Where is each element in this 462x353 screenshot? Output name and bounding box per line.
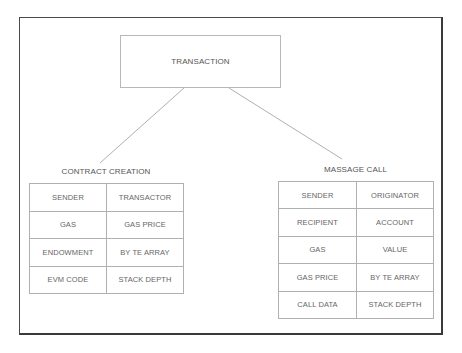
transaction-node: TRANSACTION xyxy=(120,35,281,88)
table-row: EVM CODE STACK DEPTH xyxy=(30,266,184,294)
contract-creation-label: CONTRACT CREATION xyxy=(29,167,183,176)
table-cell: SENDER xyxy=(30,184,107,212)
table-cell: SENDER xyxy=(279,182,357,209)
table-row: ENDOWMENT BY TE ARRAY xyxy=(30,239,184,267)
table-cell: RECIPIENT xyxy=(279,209,357,236)
table-row: SENDER TRANSACTOR xyxy=(30,184,184,212)
table-cell: STACK DEPTH xyxy=(107,266,184,294)
table-row: SENDER ORIGINATOR xyxy=(279,182,434,209)
table-cell: EVM CODE xyxy=(30,266,107,294)
message-call-label: MASSAGE CALL xyxy=(278,165,433,174)
table-cell: ACCOUNT xyxy=(357,209,434,236)
table-row: RECIPIENT ACCOUNT xyxy=(279,209,434,236)
table-cell: GAS PRICE xyxy=(279,264,357,291)
table-row: GAS VALUE xyxy=(279,236,434,263)
table-row: GAS GAS PRICE xyxy=(30,211,184,239)
message-call-table: SENDER ORIGINATOR RECIPIENT ACCOUNT GAS … xyxy=(278,181,434,319)
table-row: CALL DATA STACK DEPTH xyxy=(279,291,434,318)
contract-creation-table: SENDER TRANSACTOR GAS GAS PRICE ENDOWMEN… xyxy=(29,183,184,294)
table-cell: GAS xyxy=(30,211,107,239)
table-cell: CALL DATA xyxy=(279,291,357,318)
table-cell: ORIGINATOR xyxy=(357,182,434,209)
table-cell: VALUE xyxy=(357,236,434,263)
table-cell: BY TE ARRAY xyxy=(107,239,184,267)
table-cell: TRANSACTOR xyxy=(107,184,184,212)
table-cell: STACK DEPTH xyxy=(357,291,434,318)
table-cell: ENDOWMENT xyxy=(30,239,107,267)
table-cell: GAS xyxy=(279,236,357,263)
transaction-label: TRANSACTION xyxy=(171,57,229,66)
table-row: GAS PRICE BY TE ARRAY xyxy=(279,264,434,291)
table-cell: GAS PRICE xyxy=(107,211,184,239)
table-cell: BY TE ARRAY xyxy=(357,264,434,291)
